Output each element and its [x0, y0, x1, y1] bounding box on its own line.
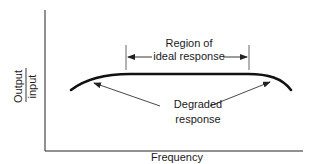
y-axis-label-numerator: Output — [12, 67, 25, 107]
y-axis-label-denominator: input — [26, 67, 39, 107]
degraded-label-line2: response — [163, 113, 233, 126]
degraded-left-arrow — [94, 83, 160, 106]
x-axis-label: Frequency — [142, 151, 212, 164]
region-label-line2: ideal response — [152, 50, 226, 63]
region-label-line1: Region of — [152, 37, 226, 50]
response-curve — [71, 74, 291, 90]
degraded-label-line1: Degraded — [163, 98, 233, 111]
frequency-response-diagram — [0, 0, 313, 164]
